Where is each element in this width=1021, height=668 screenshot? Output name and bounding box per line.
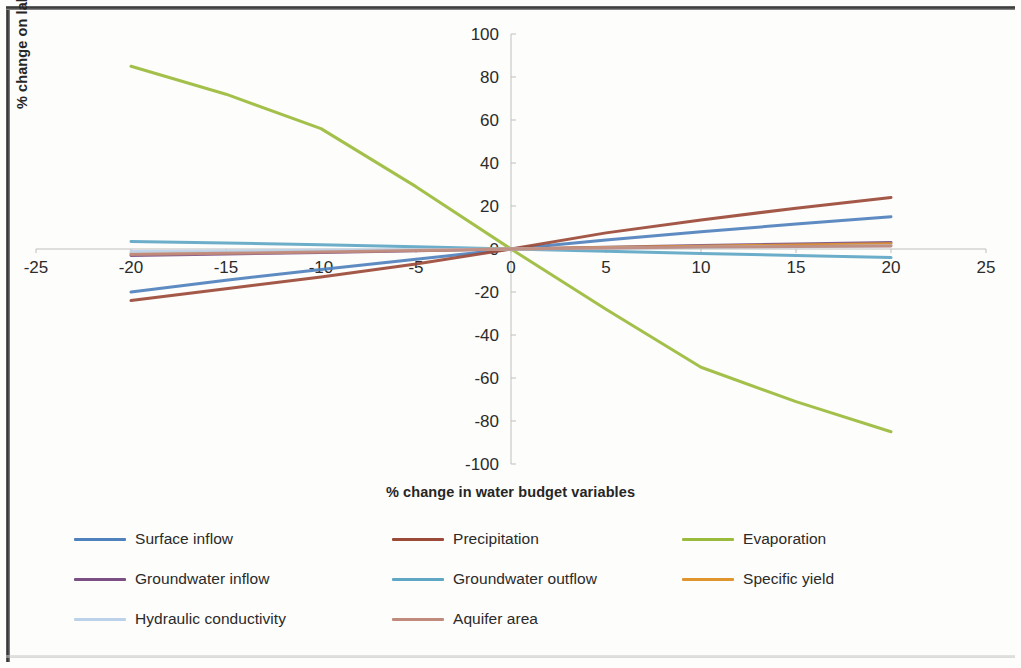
x-axis-title: % change in water budget variables bbox=[18, 484, 1003, 500]
x-tick-label: 5 bbox=[601, 258, 610, 277]
x-tick-labels: -25-20-15-10-50510152025 bbox=[24, 258, 996, 277]
chart-plot-area: -25-20-15-10-50510152025 100806040200-20… bbox=[18, 14, 1003, 494]
chart-legend: Surface inflowPrecipitationEvaporationGr… bbox=[74, 530, 979, 628]
legend-label: Precipitation bbox=[453, 530, 539, 548]
x-tick-label: 10 bbox=[692, 258, 711, 277]
legend-label: Specific yield bbox=[743, 570, 834, 588]
x-tick-label: -20 bbox=[119, 258, 144, 277]
x-tick-label: 0 bbox=[506, 258, 515, 277]
page-border-top bbox=[6, 6, 1015, 10]
legend-label: Hydraulic conductivity bbox=[135, 610, 286, 628]
y-tick-label: -40 bbox=[474, 326, 499, 345]
x-tick-label: 25 bbox=[977, 258, 996, 277]
legend-label: Surface inflow bbox=[135, 530, 233, 548]
line-chart: -25-20-15-10-50510152025 100806040200-20… bbox=[18, 14, 1003, 494]
scanned-figure-page: -25-20-15-10-50510152025 100806040200-20… bbox=[0, 0, 1021, 668]
legend-color-swatch bbox=[74, 618, 126, 621]
y-tick-label: -20 bbox=[474, 283, 499, 302]
x-tick-label: -15 bbox=[214, 258, 239, 277]
legend-item-precipitation[interactable]: Precipitation bbox=[392, 530, 682, 548]
page-border-bottom bbox=[6, 655, 1015, 658]
legend-label: Groundwater inflow bbox=[135, 570, 269, 588]
legend-color-swatch bbox=[74, 578, 126, 581]
legend-label: Evaporation bbox=[743, 530, 826, 548]
y-tick-label: 40 bbox=[480, 154, 499, 173]
legend-item-aquifer-area[interactable]: Aquifer area bbox=[392, 610, 682, 628]
y-tick-label: 20 bbox=[480, 197, 499, 216]
legend-item-evaporation[interactable]: Evaporation bbox=[682, 530, 972, 548]
legend-color-swatch bbox=[392, 618, 444, 621]
legend-color-swatch bbox=[392, 578, 444, 581]
legend-item-hydraulic-conductivity[interactable]: Hydraulic conductivity bbox=[74, 610, 392, 628]
y-tick-label: -60 bbox=[474, 369, 499, 388]
legend-color-swatch bbox=[682, 538, 734, 541]
y-tick-label: -100 bbox=[465, 455, 499, 474]
legend-item-groundwater-outflow[interactable]: Groundwater outflow bbox=[392, 570, 682, 588]
legend-item-specific-yield[interactable]: Specific yield bbox=[682, 570, 972, 588]
y-tick-label: -80 bbox=[474, 412, 499, 431]
legend-color-swatch bbox=[392, 538, 444, 541]
page-border-left bbox=[6, 6, 10, 662]
legend-label: Groundwater outflow bbox=[453, 570, 597, 588]
legend-color-swatch bbox=[74, 538, 126, 541]
y-tick-label: 80 bbox=[480, 68, 499, 87]
legend-item-groundwater-inflow[interactable]: Groundwater inflow bbox=[74, 570, 392, 588]
y-tick-label: 100 bbox=[471, 25, 499, 44]
legend-color-swatch bbox=[682, 578, 734, 581]
x-tick-label: 15 bbox=[787, 258, 806, 277]
y-tick-label: 60 bbox=[480, 111, 499, 130]
y-axis-title: % change on lake level bbox=[14, 0, 30, 144]
legend-item-surface-inflow[interactable]: Surface inflow bbox=[74, 530, 392, 548]
x-tick-label: -25 bbox=[24, 258, 49, 277]
legend-label: Aquifer area bbox=[453, 610, 538, 628]
x-tick-label: 20 bbox=[882, 258, 901, 277]
